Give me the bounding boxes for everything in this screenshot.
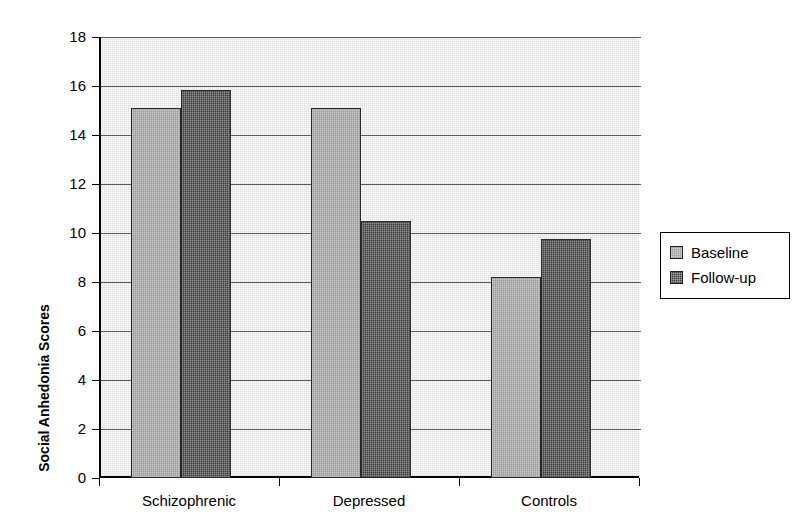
y-axis-tick-label: 12: [46, 176, 86, 191]
y-axis-tick-label: 14: [46, 127, 86, 142]
square-swatch-light-icon: [670, 246, 683, 259]
y-axis-tick: [92, 37, 99, 38]
y-axis-tick: [92, 380, 99, 381]
y-axis-tick-label: 0: [46, 470, 86, 485]
y-axis-tick: [92, 282, 99, 283]
bar-depressed-follow-up: [361, 221, 411, 478]
legend-item: Follow-up: [670, 265, 789, 290]
y-axis-tick-label: 6: [46, 323, 86, 338]
gridline: [101, 86, 641, 87]
y-axis-tick: [92, 135, 99, 136]
x-axis-tick: [639, 478, 640, 486]
swatch-texture: [671, 247, 682, 258]
y-axis-tick: [92, 429, 99, 430]
square-swatch-dark-icon: [670, 271, 683, 284]
bar-texture: [542, 240, 590, 477]
x-axis-category-label: Depressed: [279, 492, 459, 509]
x-axis-tick: [459, 478, 460, 486]
gridline: [101, 37, 641, 38]
bar-texture: [312, 109, 360, 477]
y-axis-tick-label: 2: [46, 421, 86, 436]
y-axis-title: Social Anhedonia Scores: [34, 248, 54, 528]
y-axis-tick-label: 16: [46, 78, 86, 93]
y-axis-tick: [92, 233, 99, 234]
x-axis-tick: [99, 478, 100, 486]
plot-area: [99, 37, 639, 478]
bar-schizophrenic-baseline: [131, 108, 181, 478]
bar-schizophrenic-follow-up: [181, 90, 231, 478]
y-axis-tick: [92, 86, 99, 87]
bar-controls-follow-up: [541, 239, 591, 478]
bar-controls-baseline: [491, 277, 541, 478]
bar-depressed-baseline: [311, 108, 361, 478]
bar-texture: [182, 91, 230, 477]
bar-texture: [132, 109, 180, 477]
x-axis-category-label: Controls: [459, 492, 639, 509]
x-axis-category-label: Schizophrenic: [99, 492, 279, 509]
y-axis-tick-label: 18: [46, 29, 86, 44]
y-axis-tick: [92, 331, 99, 332]
legend-item-label: Baseline: [691, 245, 749, 260]
legend-item-label: Follow-up: [691, 270, 756, 285]
y-axis-tick-label: 4: [46, 372, 86, 387]
legend-item: Baseline: [670, 240, 789, 265]
y-axis-tick: [92, 478, 99, 479]
y-axis-title-container: Social Anhedonia Scores: [18, 125, 44, 405]
y-axis-tick-label: 10: [46, 225, 86, 240]
bar-chart-figure: Social Anhedonia Scores 181614121086420 …: [0, 0, 808, 529]
x-axis-tick: [279, 478, 280, 486]
y-axis-tick-label: 8: [46, 274, 86, 289]
bar-texture: [362, 222, 410, 477]
y-axis-tick: [92, 184, 99, 185]
legend: BaselineFollow-up: [660, 232, 790, 299]
swatch-texture: [671, 272, 682, 283]
bar-texture: [492, 278, 540, 477]
